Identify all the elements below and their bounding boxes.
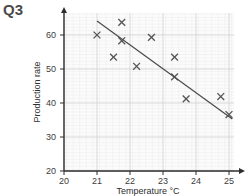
x-tick-label: 21 xyxy=(92,176,102,186)
y-tick-label: 40 xyxy=(46,98,56,108)
x-tick-label: 24 xyxy=(191,176,201,186)
plot-grid xyxy=(64,13,234,171)
x-tick-label: 20 xyxy=(59,176,69,186)
x-tick-label: 25 xyxy=(224,176,234,186)
y-tick-label: 30 xyxy=(46,132,56,142)
x-tick-label: 23 xyxy=(158,176,168,186)
y-tick-label: 50 xyxy=(46,64,56,74)
y-tick-labels: 60 50 40 30 20 xyxy=(46,30,56,176)
chart-svg: 60 50 40 30 20 20 21 22 23 24 25 Tempera… xyxy=(0,0,249,196)
x-tick-label: 22 xyxy=(125,176,135,186)
scatter-chart: 60 50 40 30 20 20 21 22 23 24 25 Tempera… xyxy=(0,0,249,196)
x-tick-labels: 20 21 22 23 24 25 xyxy=(59,176,234,186)
y-tick-label: 60 xyxy=(46,30,56,40)
y-axis-title: Production rate xyxy=(32,61,42,122)
y-tick-label: 20 xyxy=(46,166,56,176)
x-axis-title: Temperature °C xyxy=(116,186,180,196)
